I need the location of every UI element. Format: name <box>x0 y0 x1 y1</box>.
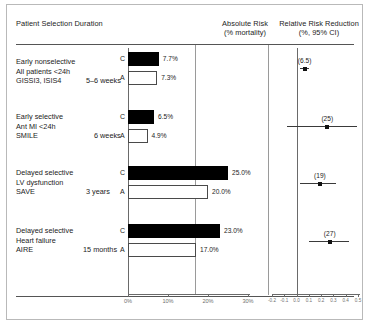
bar-value-row3-control: 25.0% <box>232 169 251 176</box>
absolute-risk-tick <box>168 294 169 297</box>
relative-risk-tick-label: 0.4 <box>343 298 349 303</box>
absolute-risk-x-axis <box>128 294 250 295</box>
bar-row3-control <box>128 166 228 180</box>
absolute-risk-tick-label: 0% <box>124 298 132 304</box>
bar-row4-control <box>128 224 220 238</box>
relative-risk-tick <box>309 294 310 297</box>
confidence-interval-row2 <box>287 126 357 127</box>
arm-label-row4-active: A <box>120 246 125 253</box>
relative-risk-tick-label: 0.3 <box>330 298 336 303</box>
absolute-risk-tick-label: 20% <box>202 298 213 304</box>
arm-label-row1-control: C <box>120 55 125 62</box>
point-estimate-row3 <box>318 182 322 186</box>
absolute-risk-tick <box>128 294 129 297</box>
point-estimate-row2 <box>325 125 329 129</box>
rrr-value-row4: (27) <box>324 230 336 237</box>
relative-risk-tick <box>272 294 273 297</box>
bar-value-row1-control: 7.7% <box>163 55 178 62</box>
absolute-risk-panel: 0%10%20%30% 7.7%C7.3%A6.5%C4.9%A25.0%C20… <box>0 0 369 326</box>
relative-risk-tick-label: 0.5 <box>355 298 361 303</box>
relative-risk-zero-line <box>297 48 298 295</box>
arm-label-row2-control: C <box>120 113 125 120</box>
arm-label-row1-active: A <box>120 74 125 81</box>
relative-risk-tick-label: 0.1 <box>306 298 312 303</box>
rrr-value-row3: (19) <box>314 172 326 179</box>
bar-row4-active <box>128 243 196 257</box>
arm-label-row2-active: A <box>120 132 125 139</box>
bar-row2-active <box>128 129 148 143</box>
relative-risk-tick <box>346 294 347 297</box>
relative-risk-tick <box>321 294 322 297</box>
point-estimate-row1 <box>303 67 307 71</box>
bar-row1-control <box>128 52 159 66</box>
relative-risk-tick <box>358 294 359 297</box>
rrr-value-row1: (6.5) <box>298 57 312 64</box>
arm-label-row3-active: A <box>120 188 125 195</box>
relative-risk-tick <box>297 294 298 297</box>
relative-risk-tick-label: -0.2 <box>268 298 276 303</box>
relative-risk-tick-label: 0.2 <box>318 298 324 303</box>
arm-label-row4-control: C <box>120 227 125 234</box>
relative-risk-tick <box>333 294 334 297</box>
bar-value-row4-control: 23.0% <box>224 227 243 234</box>
bar-value-row4-active: 17.0% <box>200 246 219 253</box>
absolute-risk-tick-label: 10% <box>162 298 173 304</box>
relative-risk-tick <box>284 294 285 297</box>
bar-value-row3-active: 20.0% <box>212 188 231 195</box>
figure-root: Patient Selection Duration Absolute Risk… <box>0 0 369 326</box>
rrr-value-row2: (25) <box>321 115 333 122</box>
absolute-risk-tick <box>208 294 209 297</box>
bar-value-row2-active: 4.9% <box>152 132 167 139</box>
bar-row3-active <box>128 185 208 199</box>
point-estimate-row4 <box>328 240 332 244</box>
relative-risk-tick-label: 0.0 <box>293 298 299 303</box>
bar-value-row1-active: 7.3% <box>161 74 176 81</box>
absolute-risk-tick-label: 30% <box>242 298 253 304</box>
bar-row2-control <box>128 110 154 124</box>
bar-row1-active <box>128 71 157 85</box>
relative-risk-tick-label: -0.1 <box>280 298 288 303</box>
arm-label-row3-control: C <box>120 169 125 176</box>
absolute-risk-tick <box>248 294 249 297</box>
bar-value-row2-control: 6.5% <box>158 113 173 120</box>
